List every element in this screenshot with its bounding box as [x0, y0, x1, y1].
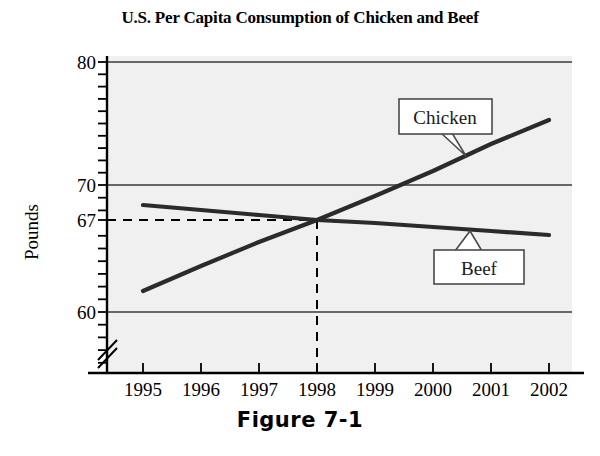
x-tick-label-1998: 1998: [298, 379, 336, 400]
y-axis-ticks: [98, 62, 107, 363]
figure-caption: Figure 7-1: [0, 408, 600, 432]
callout-chicken-label: Chicken: [413, 107, 477, 128]
x-tick-label-1999: 1999: [356, 379, 394, 400]
figure-container: U.S. Per Capita Consumption of Chicken a…: [0, 0, 600, 456]
x-tick-label-1995: 1995: [124, 379, 162, 400]
x-tick-label-2000: 2000: [414, 379, 452, 400]
chart-canvas: 80 70 67 60 Pounds 1995 1996 1997 1998 1…: [0, 0, 600, 456]
callout-beef-label: Beef: [461, 258, 498, 279]
y-tick-label-60: 60: [77, 302, 96, 323]
x-tick-label-1997: 1997: [240, 379, 278, 400]
x-tick-label-2001: 2001: [472, 379, 510, 400]
x-tick-label-1996: 1996: [182, 379, 220, 400]
y-tick-label-80: 80: [77, 52, 96, 73]
y-tick-label-70: 70: [77, 175, 96, 196]
plot-background: [107, 56, 572, 373]
x-tick-label-2002: 2002: [530, 379, 568, 400]
y-tick-label-67: 67: [77, 210, 96, 231]
y-axis-title: Pounds: [21, 204, 42, 260]
